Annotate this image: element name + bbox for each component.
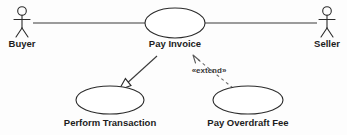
use-case-ellipse [145, 8, 205, 38]
extend-stereotype-label: «extend» [192, 66, 227, 75]
use-case-pay-overdraft-fee-label: Pay Overdraft Fee [207, 117, 288, 128]
actor-buyer[interactable]: Buyer [9, 7, 36, 49]
use-case-pay-overdraft-fee[interactable]: Pay Overdraft Fee [207, 86, 288, 128]
use-case-ellipse [76, 86, 144, 114]
use-case-perform-transaction-label: Perform Transaction [64, 117, 157, 128]
stick-figure-icon [14, 7, 30, 37]
uml-diagram-svg: Buyer Seller «extend» Pa [0, 0, 347, 135]
use-case-diagram-canvas: Buyer Seller «extend» Pa [0, 0, 347, 135]
stick-figure-icon [319, 7, 335, 37]
use-case-perform-transaction[interactable]: Perform Transaction [64, 86, 157, 128]
extend-dependency-arrow[interactable]: «extend» [192, 55, 233, 88]
use-case-pay-invoice[interactable]: Pay Invoice [145, 8, 205, 49]
open-v-arrowhead-icon [193, 55, 200, 63]
actor-seller[interactable]: Seller [314, 7, 340, 49]
actor-buyer-label: Buyer [9, 38, 36, 49]
actor-seller-label: Seller [314, 38, 340, 49]
generalization-line [125, 56, 158, 86]
generalization-arrow-perform-transaction[interactable] [119, 56, 157, 90]
use-case-ellipse [213, 86, 283, 114]
use-case-pay-invoice-label: Pay Invoice [149, 38, 201, 49]
